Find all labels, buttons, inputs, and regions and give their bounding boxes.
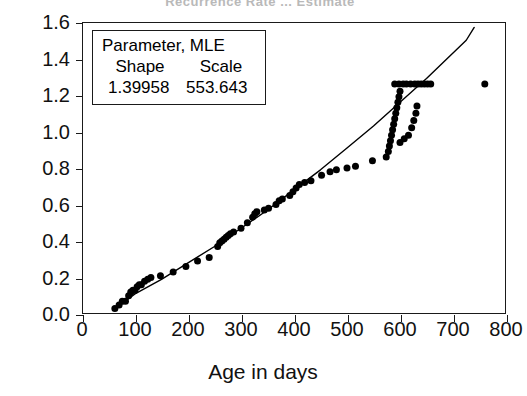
data-point bbox=[410, 117, 417, 124]
data-point bbox=[279, 196, 286, 203]
y-tick-label: 1.2 bbox=[42, 84, 70, 107]
mcf-scatter-figure: Recurrence Rate ... Estimate MCF Age in … bbox=[0, 0, 527, 396]
data-point bbox=[265, 205, 272, 212]
data-point bbox=[344, 165, 351, 172]
y-tick-label: 0.6 bbox=[42, 193, 70, 216]
y-tick-label: 1.0 bbox=[42, 120, 70, 143]
x-tick-label: 400 bbox=[277, 318, 310, 341]
data-point bbox=[244, 219, 251, 226]
scatter-points-group bbox=[111, 81, 488, 312]
parameter-box-headers: Shape Scale bbox=[102, 56, 256, 77]
data-point bbox=[405, 132, 412, 139]
data-point bbox=[194, 258, 201, 265]
y-tick-label: 0.8 bbox=[42, 157, 70, 180]
data-point bbox=[170, 269, 177, 276]
data-point bbox=[427, 81, 434, 88]
data-point bbox=[369, 157, 376, 164]
data-point bbox=[333, 166, 340, 173]
x-tick-label: 600 bbox=[383, 318, 416, 341]
data-point bbox=[182, 263, 189, 270]
y-tick-label: 0.4 bbox=[42, 230, 70, 253]
y-tick-label: 0.0 bbox=[42, 303, 70, 326]
value-shape: 1.39958 bbox=[108, 77, 172, 98]
data-point bbox=[253, 208, 260, 215]
x-tick-label: 700 bbox=[436, 318, 469, 341]
data-point bbox=[397, 88, 404, 95]
header-shape: Shape bbox=[108, 56, 172, 77]
x-tick-label: 500 bbox=[330, 318, 363, 341]
y-tick-label: 0.2 bbox=[42, 266, 70, 289]
data-point bbox=[408, 124, 415, 131]
y-tick-label: 1.4 bbox=[42, 47, 70, 70]
x-tick-label: 800 bbox=[489, 318, 522, 341]
data-point bbox=[412, 110, 419, 117]
y-tick-label: 1.6 bbox=[42, 11, 70, 34]
data-point bbox=[230, 228, 237, 235]
data-point bbox=[157, 272, 164, 279]
x-tick-label: 200 bbox=[171, 318, 204, 341]
parameter-box-values: 1.39958 553.643 bbox=[102, 77, 256, 98]
data-point bbox=[327, 168, 334, 175]
data-point bbox=[238, 225, 245, 232]
data-point bbox=[318, 172, 325, 179]
data-point bbox=[413, 102, 420, 109]
data-point bbox=[307, 177, 314, 184]
x-tick-label: 100 bbox=[118, 318, 151, 341]
header-scale: Scale bbox=[186, 56, 256, 77]
data-point bbox=[352, 163, 359, 170]
value-scale: 553.643 bbox=[186, 77, 256, 98]
x-tick-label: 300 bbox=[224, 318, 257, 341]
data-point bbox=[206, 254, 213, 261]
parameter-box-title: Parameter, MLE bbox=[102, 35, 256, 56]
parameter-legend-box: Parameter, MLE Shape Scale 1.39958 553.6… bbox=[92, 30, 266, 105]
data-point bbox=[481, 81, 488, 88]
data-point bbox=[301, 179, 308, 186]
data-point bbox=[147, 274, 154, 281]
x-tick-label: 0 bbox=[76, 318, 87, 341]
